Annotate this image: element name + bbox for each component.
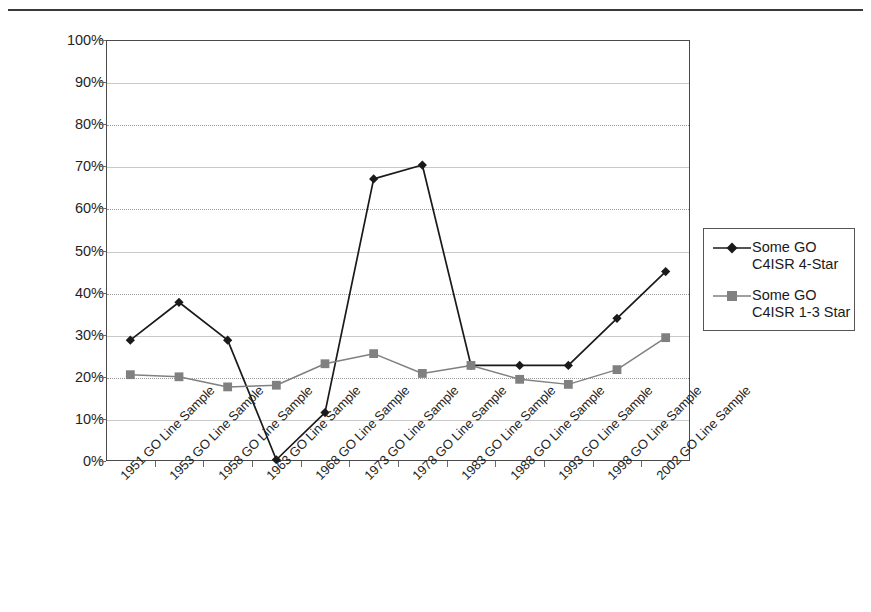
gridline	[107, 420, 689, 421]
chart-legend: Some GO C4ISR 4-Star Some GO C4ISR 1-3 S…	[703, 228, 855, 331]
x-axis-labels: 1951 GO Line Sample1953 GO Line Sample19…	[0, 461, 871, 612]
legend-marker-square-icon	[712, 288, 752, 304]
chart-figure: 100%90%80%70%60%50%40%30%20%10%0% 1951 G…	[0, 0, 871, 612]
gridline	[107, 209, 689, 210]
legend-entry-4-star: Some GO C4ISR 4-Star	[712, 239, 852, 273]
legend-label-1-3-star: Some GO C4ISR 1-3 Star	[752, 287, 850, 321]
gridline	[107, 252, 689, 253]
gridline	[107, 294, 689, 295]
y-axis-ticks	[0, 40, 106, 461]
gridline	[107, 83, 689, 84]
gridline	[107, 378, 689, 379]
gridline	[107, 336, 689, 337]
gridline	[107, 125, 689, 126]
legend-label-4-star: Some GO C4ISR 4-Star	[752, 239, 838, 273]
legend-marker-diamond-icon	[712, 240, 752, 256]
gridline	[107, 167, 689, 168]
legend-entry-1-3-star: Some GO C4ISR 1-3 Star	[712, 287, 852, 321]
